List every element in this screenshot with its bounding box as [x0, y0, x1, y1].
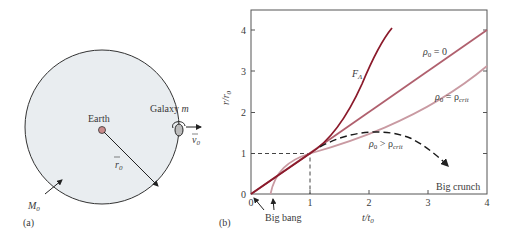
label-empty: ρ0 = 0: [422, 46, 447, 59]
panel-a-label: (a): [23, 217, 34, 229]
label-lambda: FΛ: [351, 68, 363, 81]
svg-text:0: 0: [249, 197, 254, 208]
big-crunch-label: Big crunch: [436, 181, 480, 192]
figure: Earth r0 Galaxy m v0 M0 (a) 0 1 2 3 4: [0, 0, 510, 237]
big-bang-arrow-2: [273, 199, 274, 210]
svg-text:0: 0: [241, 189, 246, 200]
big-bang-arrow-1: [254, 198, 264, 210]
svg-text:4: 4: [241, 25, 246, 36]
panel-b-label: (b): [219, 217, 231, 229]
svg-text:2: 2: [241, 107, 246, 118]
earth-label: Earth: [88, 113, 110, 124]
label-closed: ρ0 > ρcrit: [368, 138, 404, 151]
svg-text:3: 3: [426, 197, 431, 208]
label-critical: ρ0 = ρcrit: [434, 91, 470, 104]
svg-text:2: 2: [367, 197, 372, 208]
x-axis-label: t/t0: [362, 212, 374, 225]
svg-text:1: 1: [241, 148, 246, 159]
panel-a: Earth r0 Galaxy m v0 M0 (a): [23, 50, 201, 229]
y-tick-labels: 0 1 2 3 4: [241, 25, 246, 200]
panel-b: 0 1 2 3 4 0 1 2 3 4 r/r0 t/t0 (b) FΛ ρ0 …: [219, 10, 490, 229]
curve-critical: [271, 66, 488, 194]
svg-text:1: 1: [308, 197, 313, 208]
big-bang-label: Big bang: [265, 212, 301, 223]
velocity-label: v0: [192, 134, 200, 147]
svg-text:4: 4: [485, 197, 490, 208]
galaxy-icon: [175, 124, 183, 136]
galaxy-label: Galaxy m: [150, 103, 189, 114]
y-axis-label: r/r0: [220, 90, 233, 105]
x-tick-labels: 0 1 2 3 4: [249, 197, 490, 208]
svg-text:3: 3: [241, 66, 246, 77]
mass-label: M0: [27, 200, 40, 213]
